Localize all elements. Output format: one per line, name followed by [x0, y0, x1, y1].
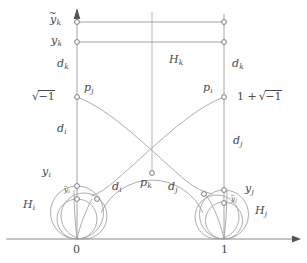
label-d-k-right: dk — [232, 58, 244, 71]
vertical-geodesics — [77, 12, 224, 239]
radical-body-right: −1 — [265, 90, 282, 102]
label-d-j-mid-base: d — [168, 180, 175, 193]
marker-yi-tilde — [75, 197, 80, 202]
label-y-j: yj — [245, 183, 254, 196]
label-d-i-left-base: d — [57, 122, 64, 135]
label-y-tilde-j-base: ~y — [231, 196, 235, 203]
label-d-j-mid-sub: j — [175, 185, 177, 194]
label-d-i-left: di — [57, 123, 67, 136]
tilde-accent-y-k: ~ — [49, 8, 57, 17]
tilde-accent-y-i: ~ — [63, 183, 68, 189]
label-d-i-mid-sub: i — [119, 185, 121, 194]
label-y-tilde-i-sub: i — [68, 189, 70, 194]
axis-tick-label-0: 0 — [73, 244, 80, 255]
label-y-tilde-k-sub: k — [56, 18, 61, 27]
label-H-j-sub: j — [265, 209, 267, 218]
horoball-diagram: ~yk yk dk Hk dk pj pi √−1 1 +√−1 di dj y… — [0, 0, 307, 263]
label-y-tilde-j: ~yj — [231, 196, 237, 204]
label-p-k-base: p — [140, 176, 147, 189]
marker-pj — [75, 95, 80, 100]
label-p-k-sub: k — [147, 181, 152, 190]
label-y-tilde-j-sub: j — [235, 198, 236, 203]
label-sqrt-minus-one: √−1 — [32, 90, 55, 102]
marker-Hj-left — [202, 192, 207, 197]
label-d-k-right-base: d — [232, 57, 239, 70]
marker-pk — [150, 171, 155, 176]
label-y-i: yi — [42, 166, 51, 179]
marker-Hi-right — [95, 197, 100, 202]
marker-yj-tilde — [222, 201, 227, 206]
label-d-j-right-sub: j — [240, 139, 242, 148]
label-d-i-mid-base: d — [112, 180, 119, 193]
label-d-j-right-base: d — [233, 134, 240, 147]
radical-body-left: −1 — [38, 90, 55, 102]
label-one-plus-prefix: 1 + — [237, 90, 257, 103]
label-y-i-sub: i — [48, 170, 50, 179]
real-axis-arrowhead — [292, 236, 301, 243]
label-H-j-base: H — [255, 204, 265, 217]
label-p-j-sub: j — [91, 86, 93, 95]
label-y-k-sub: k — [57, 39, 62, 48]
marker-y-tilde-k-left — [75, 20, 80, 25]
label-y-tilde-k: ~yk — [50, 14, 61, 27]
imaginary-axis-arrowhead — [74, 8, 81, 19]
marker-yj — [222, 188, 227, 193]
marker-y-k-left — [75, 40, 80, 45]
label-p-k: pk — [140, 177, 152, 190]
label-H-k: Hk — [169, 54, 183, 67]
label-d-k-left-base: d — [57, 57, 64, 70]
label-d-j-right: dj — [233, 135, 243, 148]
marker-yi — [75, 184, 80, 189]
label-y-tilde-i-base: ~y — [64, 187, 68, 194]
marker-y-k-right — [222, 40, 227, 45]
real-axis — [6, 236, 301, 243]
label-p-i: pi — [203, 82, 213, 95]
tilde-accent-y-j: ~ — [230, 192, 235, 198]
axis-tick-label-1: 1 — [221, 244, 228, 255]
horoball-Hi-group — [51, 186, 108, 239]
label-d-j-mid: dj — [168, 181, 178, 194]
horoball-Hi-chord-right — [77, 199, 92, 239]
label-d-k-right-sub: k — [239, 62, 244, 71]
label-d-k-left: dk — [57, 58, 69, 71]
marker-y-tilde-k-right — [222, 20, 227, 25]
label-H-i-sub: i — [33, 203, 35, 212]
label-d-i-left-sub: i — [64, 127, 66, 136]
label-one-plus-sqrt-minus-one: 1 +√−1 — [237, 90, 282, 102]
label-p-j-base: p — [84, 81, 91, 94]
label-H-j: Hj — [255, 205, 267, 218]
horoball-Hj-chord-left — [206, 195, 224, 239]
label-H-k-sub: k — [179, 58, 184, 67]
label-p-i-sub: i — [210, 86, 212, 95]
marker-pi — [222, 95, 227, 100]
label-d-k-left-sub: k — [64, 62, 69, 71]
label-d-i-mid: di — [112, 181, 122, 194]
geodesic-arc-from-pi — [91, 97, 224, 196]
label-p-i-base: p — [203, 81, 210, 94]
label-p-j: pj — [84, 82, 94, 95]
diagram-canvas — [0, 0, 307, 263]
label-H-i: Hi — [23, 199, 35, 212]
label-H-k-base: H — [169, 53, 179, 66]
label-y-tilde-k-base: ~y — [50, 14, 56, 25]
label-y-k: yk — [51, 35, 62, 48]
label-y-tilde-i: ~yi — [64, 187, 70, 195]
horoball-Hj-group — [195, 190, 249, 239]
label-H-i-base: H — [23, 198, 33, 211]
label-y-j-sub: j — [251, 187, 253, 196]
